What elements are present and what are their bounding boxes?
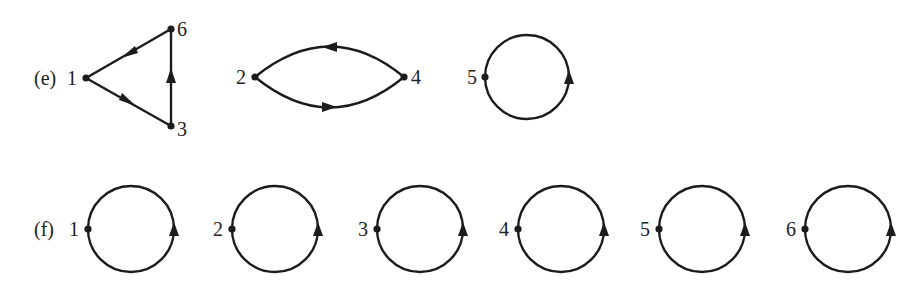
diagram-canvas: (e) 1 6 3 2 4 [0,0,908,299]
cycle-f-3: 3 [358,186,468,272]
cycle-f-6: 6 [786,186,896,272]
cycle-f-2: 2 [213,186,323,272]
loop-2 [232,186,318,272]
arrow-2-to-4-icon [322,102,337,112]
cycle-5: 5 [467,35,574,119]
node-2 [228,225,235,232]
node-2 [251,73,258,80]
node-2-label: 2 [236,66,246,88]
loop-3 [377,186,463,272]
loop-1 [88,186,174,272]
node-6 [801,225,808,232]
node-3 [167,122,174,129]
node-4 [514,225,521,232]
node-6-label: 6 [177,18,187,40]
arrow-loop-6-icon [886,222,896,236]
node-5-label: 5 [467,66,477,88]
node-5 [655,225,662,232]
node-6-label: 6 [786,218,796,240]
arrow-loop-3-icon [458,222,468,236]
arrow-loop-2-icon [313,222,323,236]
arrow-loop-5-icon [564,70,574,84]
loop-6 [805,186,891,272]
cycle-f-5: 5 [640,186,750,272]
cycle-2-4: 2 4 [236,42,421,112]
cycle-f-4: 4 [499,186,609,272]
loop-4 [518,186,604,272]
node-1 [84,225,91,232]
node-1-label: 1 [69,218,79,240]
node-4-label: 4 [499,218,509,240]
loop-5 [485,35,569,119]
arrow-1-to-3-icon [119,93,136,106]
edge-4-to-2 [255,47,404,78]
cycle-f-1: 1 [69,186,179,272]
part-e: (e) 1 6 3 2 4 [34,18,574,140]
node-4 [400,73,407,80]
node-1-label: 1 [67,67,77,89]
node-5-label: 5 [640,218,650,240]
arrow-6-to-1-icon [121,46,138,58]
part-e-label: (e) [34,67,56,90]
arrow-3-to-6-icon [166,68,176,83]
edge-2-to-4 [255,77,404,108]
arrow-loop-4-icon [599,222,609,236]
part-f: (f) 1 2 3 4 5 [34,186,896,272]
node-6 [167,25,174,32]
node-3-label: 3 [177,118,187,140]
node-1 [82,74,89,81]
loop-5 [659,186,745,272]
cycle-1-3-6: 1 6 3 [67,18,187,140]
node-2-label: 2 [213,218,223,240]
node-3-label: 3 [358,218,368,240]
arrow-loop-5-icon [740,222,750,236]
arrow-loop-1-icon [169,222,179,236]
node-3 [373,225,380,232]
node-4-label: 4 [411,66,421,88]
arrow-4-to-2-icon [322,42,337,52]
node-5 [481,73,488,80]
part-f-label: (f) [34,218,54,241]
